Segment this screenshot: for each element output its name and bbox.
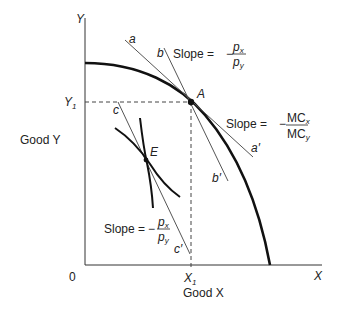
svg-text:px: px	[157, 215, 170, 230]
svg-text:Slope =: Slope =	[173, 47, 214, 61]
line-c-prime-label: c′	[174, 242, 183, 256]
svg-text:py: py	[232, 55, 245, 70]
line-b	[164, 48, 228, 181]
line-b-prime-label: b′	[212, 171, 222, 185]
line-a-label: a	[129, 32, 136, 46]
slope-annotation-top: Slope = − px py	[173, 40, 246, 70]
good-x-title: Good X	[183, 286, 224, 300]
good-y-title: Good Y	[20, 133, 60, 147]
svg-text:py: py	[157, 230, 170, 245]
y-axis-label: Y	[76, 12, 85, 26]
line-a-prime-label: a′	[251, 141, 261, 155]
origin-label: 0	[69, 270, 76, 284]
svg-text:Slope =: Slope =	[104, 222, 145, 236]
svg-text:MCy: MCy	[287, 127, 311, 142]
point-e-label: E	[150, 145, 159, 159]
y1-label: Y1	[64, 95, 76, 111]
svg-text:px: px	[232, 40, 245, 55]
svg-text:−: −	[279, 117, 286, 131]
line-c-label: c	[113, 103, 119, 117]
point-a	[188, 99, 194, 105]
point-a-label: A	[196, 87, 205, 101]
svg-text:MCx: MCx	[287, 111, 311, 126]
point-e	[144, 158, 149, 163]
line-b-label: b	[157, 46, 164, 60]
slope-annotation-bottom: Slope = − px py	[104, 215, 170, 245]
x-axis-label: X	[313, 269, 323, 283]
curve-e-steep	[140, 118, 153, 208]
slope-annotation-right: Slope = − MCx MCy	[226, 111, 311, 142]
svg-text:−: −	[226, 47, 233, 61]
ppf-diagram: Y X 0 Good Y Good X Y1 X1 A E a a′ b b′ …	[0, 0, 343, 317]
x1-label: X1	[183, 271, 196, 287]
svg-text:−: −	[148, 222, 155, 236]
svg-text:Slope =: Slope =	[226, 117, 267, 131]
